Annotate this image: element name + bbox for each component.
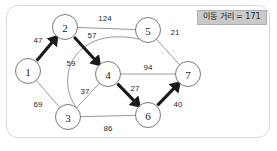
edge-weight-2-5: 124: [98, 14, 112, 23]
node-label-2: 2: [62, 22, 68, 34]
edge-weight-3-4: 37: [81, 87, 90, 96]
path-weight-2-4: 57: [88, 31, 97, 40]
distance-badge: 이동 거리 = 171: [197, 10, 267, 25]
node-label-7: 7: [185, 69, 191, 81]
path-weight-6-7: 40: [174, 100, 183, 109]
node-label-4: 4: [105, 69, 111, 81]
node-label-3: 3: [65, 112, 71, 124]
node-label-1: 1: [25, 66, 31, 78]
edge-weight-4-7: 94: [144, 63, 153, 72]
path-arrow-2-4: [74, 37, 96, 61]
screenshot-root: 1234567 12421948669375947572740 이동 거리 = …: [0, 0, 277, 151]
edge-3-6: [80, 115, 135, 116]
edge-2-5: [77, 27, 135, 29]
edge-weight-3-5: 59: [67, 59, 76, 68]
edge-weight-3-6: 86: [104, 124, 113, 133]
node-label-6: 6: [145, 110, 151, 122]
edge-5-7: [156, 39, 179, 65]
node-label-5: 5: [145, 25, 151, 37]
edge-weight-1-3: 69: [34, 100, 43, 109]
path-weight-1-2: 47: [34, 36, 43, 45]
edge-weight-5-7: 21: [171, 28, 180, 37]
path-weight-4-6: 27: [131, 84, 140, 93]
